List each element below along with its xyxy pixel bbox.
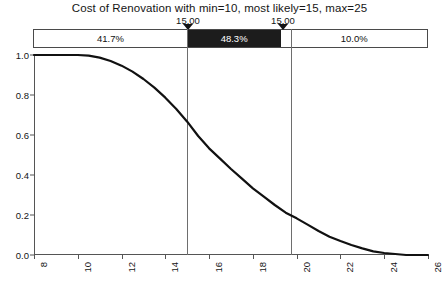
y-tick-label: 0.2 [16, 210, 29, 221]
band-segment-right: 10.0% [281, 30, 427, 47]
band-segment-middle: 48.3% [187, 30, 282, 47]
x-tick-mark [384, 255, 385, 259]
x-tick-mark [340, 255, 341, 259]
x-tick-mark [34, 255, 35, 259]
x-tick-label: 10 [82, 262, 93, 273]
x-tick-mark [297, 255, 298, 259]
x-tick-label: 8 [38, 262, 49, 267]
y-tick-label: 0.0 [16, 250, 29, 261]
reliability-curve [34, 55, 428, 255]
x-tick-label: 20 [301, 262, 312, 273]
y-tick-label: 1.0 [16, 50, 29, 61]
x-tick-label: 16 [213, 262, 224, 273]
band-segment-left: 41.7% [34, 30, 187, 47]
probability-band: 41.7% 48.3% 10.0% [33, 29, 428, 48]
chart-title: Cost of Renovation with min=10, most lik… [0, 2, 439, 14]
x-tick-label: 12 [126, 262, 137, 273]
x-tick-mark [253, 255, 254, 259]
x-tick-label: 22 [344, 262, 355, 273]
upper-bound-handle-icon[interactable] [278, 24, 288, 30]
x-tick-label: 14 [169, 262, 180, 273]
band-segment-right-label: 10.0% [341, 34, 368, 44]
y-tick-label: 0.4 [16, 170, 29, 181]
x-tick-mark [209, 255, 210, 259]
x-tick-label: 24 [388, 262, 399, 273]
x-tick-mark [122, 255, 123, 259]
y-tick-label: 0.6 [16, 130, 29, 141]
band-segment-middle-label: 48.3% [221, 34, 248, 44]
curve-plot [34, 55, 428, 255]
x-tick-mark [165, 255, 166, 259]
x-tick-label: 26 [432, 262, 443, 273]
x-tick-mark [78, 255, 79, 259]
plot-area: 0.00.20.40.60.81.0 8101214161820222426 [34, 55, 428, 255]
y-tick-label: 0.8 [16, 90, 29, 101]
band-segment-left-label: 41.7% [97, 34, 124, 44]
x-tick-label: 18 [257, 262, 268, 273]
